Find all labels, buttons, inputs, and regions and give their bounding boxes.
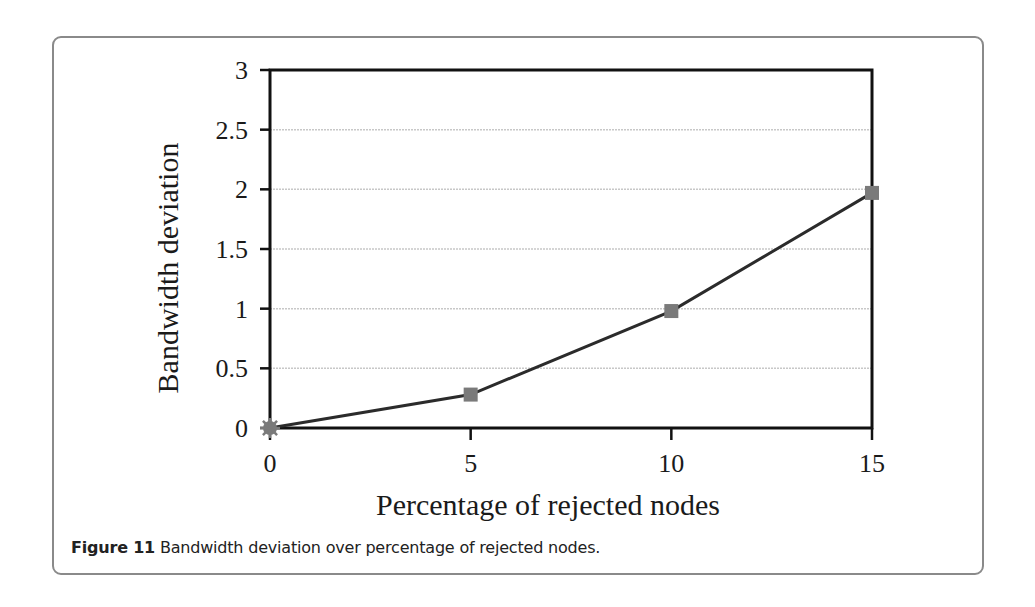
data-line — [270, 193, 872, 428]
x-tick-label: 10 — [658, 449, 684, 478]
gridlines — [270, 130, 872, 369]
line-chart: 00.511.522.53 051015 Percentage of rejec… — [0, 0, 1035, 607]
caption-text: Bandwidth deviation over percentage of r… — [155, 538, 600, 557]
data-markers — [260, 186, 879, 438]
x-tick-label: 5 — [464, 449, 477, 478]
square-marker — [664, 304, 678, 318]
y-tick-label: 3 — [235, 56, 248, 85]
y-tick-label: 1 — [235, 295, 248, 324]
star-marker — [260, 418, 280, 438]
square-marker — [865, 186, 879, 200]
caption-label: Figure 11 — [71, 538, 155, 557]
figure-caption: Figure 11 Bandwidth deviation over perce… — [71, 538, 600, 557]
x-tick-label: 0 — [264, 449, 277, 478]
y-tick-label: 0.5 — [216, 354, 249, 383]
x-axis-ticks: 051015 — [264, 428, 886, 478]
y-tick-label: 1.5 — [216, 235, 249, 264]
y-tick-label: 2 — [235, 175, 248, 204]
y-axis-ticks: 00.511.522.53 — [216, 56, 271, 443]
y-axis-title: Bandwidth deviation — [151, 143, 184, 394]
square-marker — [464, 388, 478, 402]
x-tick-label: 15 — [859, 449, 885, 478]
x-axis-title: Percentage of rejected nodes — [376, 488, 720, 521]
y-tick-label: 0 — [235, 414, 248, 443]
y-tick-label: 2.5 — [216, 116, 249, 145]
